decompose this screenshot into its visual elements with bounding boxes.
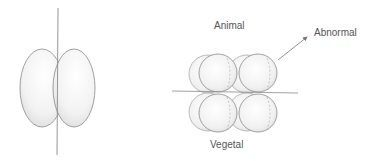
vegetal-pole-label: Vegetal: [210, 139, 243, 150]
abnormal-arrow: [278, 37, 307, 60]
equatorial-plane-line: [172, 91, 298, 93]
two-cell-embryo: [20, 8, 95, 155]
diagram-canvas: [0, 0, 374, 161]
right-blastomere: [53, 49, 95, 127]
cleavage-axis-line: [57, 8, 58, 155]
front-cell-bottom-left: [199, 94, 237, 132]
eight-cell-embryo: [172, 54, 298, 132]
animal-pole-label: Animal: [214, 20, 245, 31]
front-cell-top-left: [199, 54, 237, 92]
abnormal-label: Abnormal: [314, 27, 357, 38]
front-cell-top-right: [239, 54, 277, 92]
front-cell-bottom-right: [239, 94, 277, 132]
